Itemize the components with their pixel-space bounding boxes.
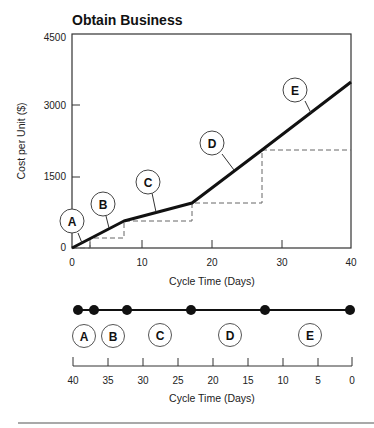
y-tick-0: 0 (60, 242, 66, 253)
callout-b-label: B (99, 198, 108, 212)
segment-a: A (80, 330, 89, 344)
timeline-axis-label: Cycle Time (Days) (169, 392, 255, 404)
x-tick-30: 30 (276, 257, 288, 268)
x-tick-20: 20 (206, 257, 218, 268)
chart-title: Obtain Business (72, 12, 183, 28)
x-tick-10: 10 (136, 257, 148, 268)
timeline-axis: 40 35 30 25 20 15 10 5 0 Cycle Time (Day… (67, 357, 355, 404)
x-axis-label: Cycle Time (Days) (169, 275, 255, 287)
segment-d: D (226, 329, 235, 343)
timeline-segment-labels: A B C D E (73, 324, 322, 348)
segment-c: C (156, 329, 165, 343)
callout-b: B (91, 192, 115, 228)
callout-e-label: E (291, 84, 299, 98)
y-axis-label: Cost per Unit ($) (15, 102, 27, 179)
y-tick-3000: 3000 (44, 100, 67, 111)
callout-d-label: D (208, 137, 217, 151)
figure: Obtain Business 4500 3000 1500 0 Cost pe… (0, 0, 374, 428)
timeline-tick-20: 20 (207, 375, 219, 386)
x-tick-40: 40 (345, 257, 357, 268)
y-tick-1500: 1500 (44, 171, 67, 182)
cumulative-cost-line (72, 82, 351, 248)
timeline-tick-5: 5 (315, 375, 321, 386)
timeline-tick-10: 10 (277, 375, 289, 386)
callout-e: E (283, 78, 311, 113)
x-tick-0: 0 (69, 257, 75, 268)
timeline-tick-35: 35 (102, 375, 114, 386)
y-tick-4500: 4500 (44, 32, 67, 43)
timeline-tick-0: 0 (349, 375, 355, 386)
callout-c-label: C (144, 176, 153, 190)
timeline-tick-15: 15 (242, 375, 254, 386)
callout-c: C (136, 170, 160, 212)
callout-a-label: A (68, 215, 77, 229)
timeline-track (73, 305, 355, 315)
timeline-tick-30: 30 (137, 375, 149, 386)
segment-b: B (109, 330, 118, 344)
segment-e: E (306, 329, 314, 343)
callout-d: D (200, 131, 234, 170)
timeline-tick-40: 40 (67, 375, 79, 386)
x-axis: 0 10 20 30 40 Cycle Time (Days) (69, 240, 357, 287)
timeline-tick-25: 25 (172, 375, 184, 386)
